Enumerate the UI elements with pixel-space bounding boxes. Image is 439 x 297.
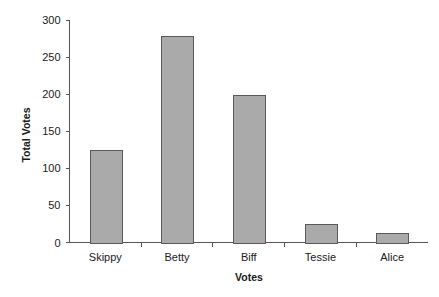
- bar: [162, 37, 194, 244]
- x-tick-label: Skippy: [89, 251, 123, 263]
- y-axis-title: Total Votes: [20, 107, 32, 162]
- y-tick-label: 250: [42, 51, 60, 63]
- y-tick-label: 100: [42, 162, 60, 174]
- bar-chart-figure: 050100150200250300 SkippyBettyBiffTessie…: [0, 0, 439, 297]
- y-axis-ticks: [66, 20, 70, 243]
- y-tick-label: 200: [42, 88, 60, 100]
- chart-plot-area: 050100150200250300 SkippyBettyBiffTessie…: [0, 0, 439, 297]
- y-axis-tick-labels: 050100150200250300: [42, 14, 60, 249]
- x-axis-title: Votes: [235, 271, 263, 283]
- y-tick-label: 150: [42, 125, 60, 137]
- bar: [306, 225, 338, 244]
- x-tick-label: Betty: [165, 251, 191, 263]
- bar: [377, 234, 409, 244]
- x-tick-label: Tessie: [305, 251, 336, 263]
- y-tick-label: 50: [48, 199, 60, 211]
- bar: [234, 96, 266, 244]
- bar-series: [91, 37, 409, 244]
- x-axis-tick-labels: SkippyBettyBiffTessieAlice: [89, 251, 404, 263]
- y-tick-label: 0: [54, 237, 60, 249]
- y-tick-label: 300: [42, 14, 60, 26]
- x-tick-label: Alice: [380, 251, 404, 263]
- x-tick-label: Biff: [241, 251, 258, 263]
- bar: [91, 151, 123, 244]
